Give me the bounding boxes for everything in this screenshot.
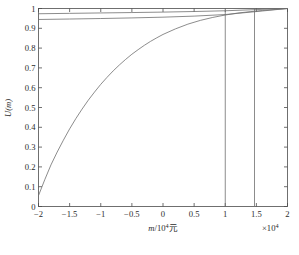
plot-frame [39,9,288,207]
x-tick-label: 0 [161,209,165,219]
x-tick-label: 1 [223,209,227,219]
y-tick-label: 0.8 [25,43,36,53]
y-tick-label: 0.7 [25,63,36,73]
y-axis-label: U(m) [3,99,13,117]
x-tick-label: −0.5 [124,209,140,219]
x-tick-label: 0.5 [189,209,200,219]
x-tick-label: 2 [285,209,289,219]
y-tick-label: 0.6 [25,83,36,93]
x-axis-label: m/104元 [148,222,177,233]
x-axis-tick-labels: −2−1.5−1−0.500.511.52 [34,209,290,219]
y-tick-label: 0.3 [25,142,36,152]
x-tick-label: 1.5 [251,209,262,219]
y-axis-tick-labels: 00.10.20.30.40.50.60.70.80.91 [25,4,36,212]
y-axis-ticks [39,9,288,207]
utility-function-chart: −2−1.5−1−0.500.511.52 00.10.20.30.40.50.… [0,0,299,255]
y-tick-label: 0 [31,202,35,212]
y-tick-label: 0.5 [25,103,36,113]
y-tick-label: 0.9 [25,23,36,33]
curve-u1 [39,9,288,196]
vertical-marker-lines [225,9,254,207]
x-tick-label: −1.5 [62,209,78,219]
chart-svg: −2−1.5−1−0.500.511.52 00.10.20.30.40.50.… [0,0,299,255]
x-axis-ticks [39,9,288,207]
y-tick-label: 0.4 [25,122,36,132]
y-tick-label: 1 [31,4,35,14]
x-axis-multiplier: ×104 [262,222,279,233]
y-tick-label: 0.1 [25,182,36,192]
y-tick-label: 0.2 [25,162,36,172]
data-curves [39,9,288,196]
x-tick-label: −1 [96,209,105,219]
